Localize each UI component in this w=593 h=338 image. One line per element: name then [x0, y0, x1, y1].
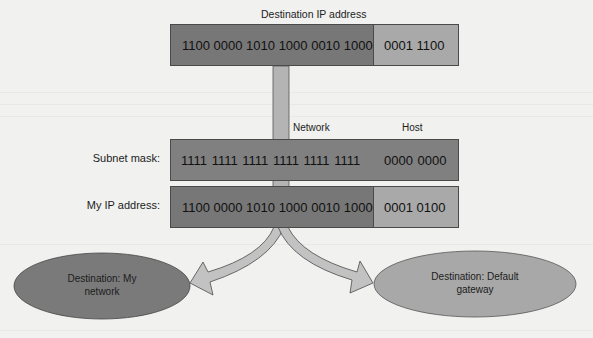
destination-ip-network-bits: 1100 0000 1010 1000 0010 1000	[171, 25, 374, 65]
destination-my-network-line1: Destination: My	[42, 272, 162, 285]
destination-ip-box: 1100 0000 1010 1000 0010 1000 0001 1100	[170, 24, 459, 66]
destination-my-network-line2: network	[42, 285, 162, 298]
subnet-mask-network-value: 1111 1111 1111 1111 1111 1111	[181, 153, 360, 168]
destination-default-gateway-line2: gateway	[410, 283, 540, 296]
subnet-mask-host-bits: 0000 0000	[384, 153, 446, 168]
destination-ip-title: Destination IP address	[261, 8, 366, 20]
subnet-mask-label: Subnet mask:	[40, 152, 160, 164]
arrow-to-my-network-icon	[190, 227, 284, 295]
my-ip-address-box: 1100 0000 1010 1000 0010 1000 0001 0100	[170, 186, 459, 228]
my-ip-host-bits: 0001 0100	[374, 187, 458, 227]
destination-ip-host-bits: 0001 1100	[374, 25, 458, 65]
network-column-label: Network	[293, 122, 330, 133]
destination-default-gateway-line1: Destination: Default	[410, 270, 540, 283]
subnet-mask-box: 1111 1111 1111 1111 1111 1111 0000 0000	[170, 139, 459, 181]
destination-default-gateway-text: Destination: Default gateway	[410, 270, 540, 296]
arrow-to-default-gateway-icon	[278, 227, 373, 293]
destination-my-network-text: Destination: My network	[42, 272, 162, 298]
subnet-mask-network-bits: 1111 1111 1111 1111 1111 1111 0000 0000	[171, 140, 458, 180]
host-column-label: Host	[402, 122, 423, 133]
my-ip-address-label: My IP address:	[40, 199, 160, 211]
my-ip-network-bits: 1100 0000 1010 1000 0010 1000	[171, 187, 374, 227]
